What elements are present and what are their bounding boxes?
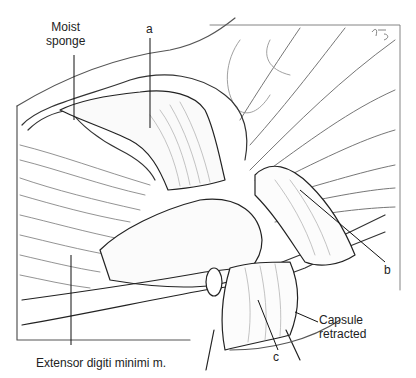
anatomical-illustration: Moist sponge a b c Capsule retracted Ext… [0,0,416,378]
label-capsule-retracted: Capsule retracted [319,313,366,341]
label-a: a [146,22,153,36]
signature-mark [372,29,388,40]
label-extensor-digiti-minimi: Extensor digiti minimi m. [36,356,166,370]
label-b: b [384,263,391,277]
label-moist-sponge: Moist sponge [46,20,85,48]
label-c: c [273,350,279,364]
leader-capsule [295,312,318,322]
